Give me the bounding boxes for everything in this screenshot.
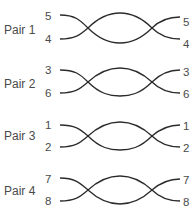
twisted-wire-icon — [0, 119, 194, 159]
twisted-wire-icon — [0, 173, 194, 208]
pair-1: Pair 1 5 4 5 4 — [0, 10, 194, 50]
pair-3: Pair 3 1 2 1 2 — [0, 119, 194, 159]
pair-4: Pair 4 7 8 7 8 — [0, 173, 194, 208]
twisted-wire-icon — [0, 64, 194, 104]
pair-2: Pair 2 3 6 3 6 — [0, 64, 194, 104]
twisted-wire-icon — [0, 10, 194, 50]
